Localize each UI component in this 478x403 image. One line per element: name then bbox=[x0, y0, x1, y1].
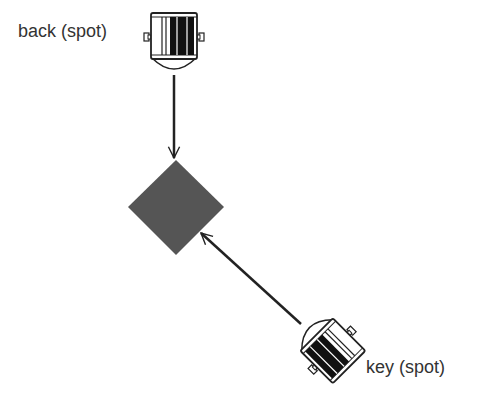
back-spot-light-icon bbox=[144, 13, 204, 69]
back-light-label: back (spot) bbox=[18, 21, 107, 42]
key-light-label: key (spot) bbox=[366, 357, 445, 378]
key-light-arrow bbox=[201, 233, 301, 324]
key-spot-light-icon bbox=[288, 306, 370, 388]
lighting-diagram bbox=[0, 0, 478, 403]
